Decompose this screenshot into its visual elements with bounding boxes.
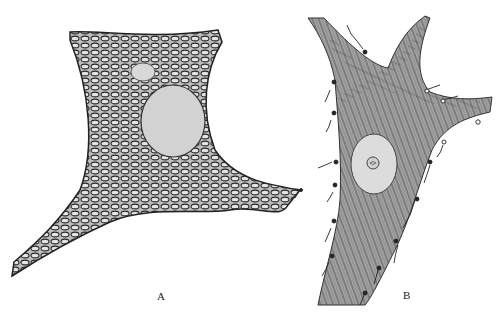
panel-label-a: A (157, 290, 165, 302)
cell-a-nucleus (141, 85, 205, 157)
panel-label-b: B (403, 289, 410, 301)
figure-canvas: A B (0, 0, 496, 314)
cell-a-body (12, 30, 300, 276)
cell-b-nucleolus (367, 157, 379, 169)
cell-illustrations (0, 0, 496, 314)
cell-a (12, 30, 300, 276)
